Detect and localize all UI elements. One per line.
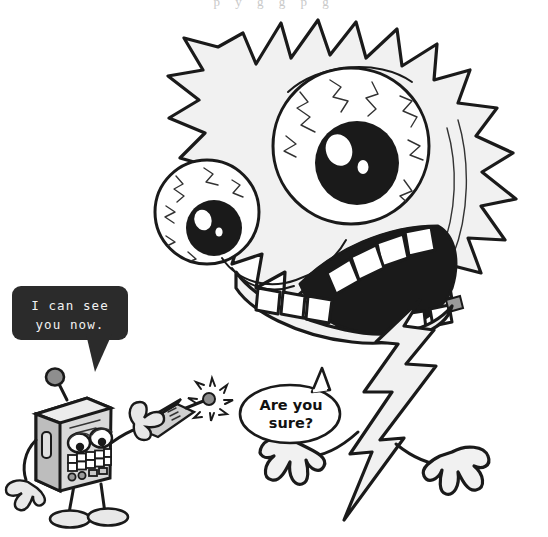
eye-highlight-small-2: [215, 227, 222, 236]
monster-pupil-small: [186, 200, 242, 256]
monster-speech-bubble: [240, 368, 340, 443]
illustration-canvas: p y g g p g .ink { fill: none; stroke: #…: [0, 0, 548, 537]
monster-eye-large: [273, 67, 429, 224]
cartoon-artwork: .ink { fill: none; stroke: #1a1a1a; stro…: [0, 0, 548, 537]
robot-speech-bubble: [12, 286, 128, 372]
monster-right-hand: [423, 447, 489, 494]
robot-left-hand: [6, 480, 45, 510]
robot-pupil-left: [76, 443, 84, 451]
robot-antenna-ball: [46, 369, 64, 386]
monster-figure: [155, 20, 516, 520]
monster-eye-small: [155, 160, 259, 264]
remote-antenna-ball: [203, 393, 215, 405]
monster-left-hand: [260, 438, 325, 484]
robot-pupil-right: [98, 438, 106, 446]
eye-highlight-large-2: [358, 160, 369, 174]
robot-left-arm: [24, 440, 36, 480]
robot-side-vent: [42, 432, 51, 458]
robot-figure: [6, 369, 233, 528]
robot-right-foot: [88, 509, 128, 526]
monster-pupil-large: [315, 121, 399, 205]
robot-left-foot: [50, 511, 90, 528]
remote-transmitter: [130, 378, 233, 440]
